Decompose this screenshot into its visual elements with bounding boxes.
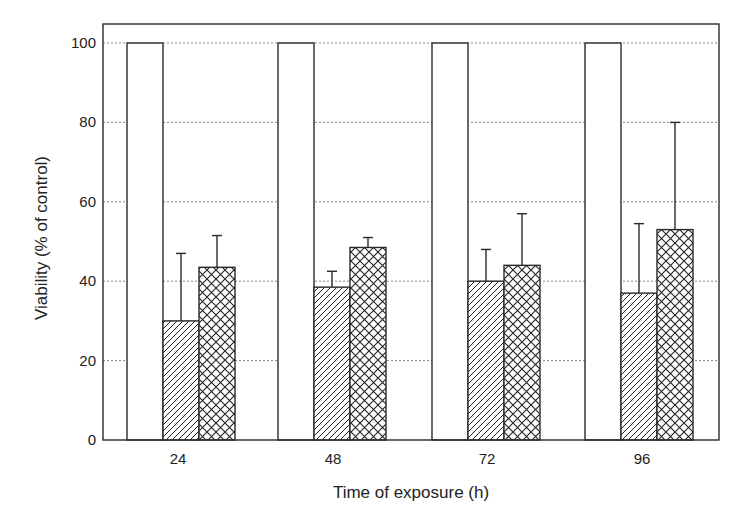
bar-cross-hatch-48: [350, 247, 386, 440]
bar-cross-hatch-96: [657, 230, 693, 440]
y-axis-label: Viability (% of control): [32, 156, 51, 320]
y-axis-ticks: 020406080100: [71, 34, 96, 448]
x-tick-label: 48: [325, 450, 342, 467]
y-tick-label: 80: [79, 113, 96, 130]
bar-diagonal-hatch-48: [314, 287, 350, 440]
y-tick-label: 60: [79, 193, 96, 210]
bar-white-24: [127, 43, 163, 440]
bar-diagonal-hatch-72: [468, 281, 504, 440]
x-tick-label: 72: [479, 450, 496, 467]
x-tick-label: 96: [634, 450, 651, 467]
y-tick-label: 0: [88, 431, 96, 448]
y-tick-label: 40: [79, 272, 96, 289]
y-tick-label: 20: [79, 352, 96, 369]
bar-white-48: [278, 43, 314, 440]
bar-white-96: [585, 43, 621, 440]
bar-cross-hatch-24: [199, 267, 235, 440]
x-axis-label: Time of exposure (h): [333, 483, 489, 502]
x-axis-ticks: 24487296: [170, 450, 651, 467]
y-tick-label: 100: [71, 34, 96, 51]
bar-white-72: [432, 43, 468, 440]
bar-cross-hatch-72: [504, 265, 540, 440]
bar-chart: 020406080100 24487296 Time of exposure (…: [0, 0, 747, 523]
bar-diagonal-hatch-96: [621, 293, 657, 440]
bars: [127, 43, 693, 440]
x-tick-label: 24: [170, 450, 187, 467]
bar-diagonal-hatch-24: [163, 321, 199, 440]
